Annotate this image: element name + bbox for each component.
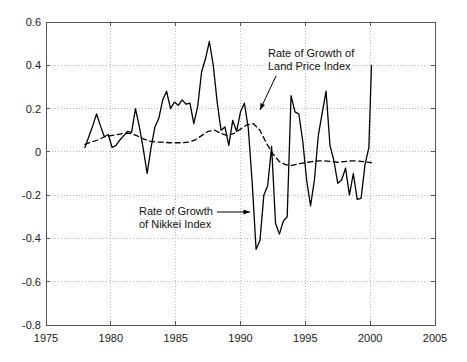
y-axis-tick-label: 0 [35,146,41,158]
x-axis-tick-label: 1975 [34,332,58,344]
x-axis-tick-label: 2005 [423,332,447,344]
annotation-land-price-label: Rate of Growth of Land Price Index [268,47,354,73]
annotation-nikkei-line2: of Nikkei Index [139,218,213,231]
x-axis-tick-label: 1995 [293,332,317,344]
chart-plot-area [0,0,467,362]
x-axis-tick-label: 1980 [99,332,123,344]
annotation-land-price-line1: Rate of Growth of [268,47,354,60]
y-axis-tick-label: 0.6 [26,16,41,28]
y-axis-tick-label: -0.6 [22,276,41,288]
chart-figure: 0.60.40.20-0.2-0.4-0.6-0.8 1975198019851… [0,0,467,362]
y-axis-tick-label: -0.4 [22,232,41,244]
y-axis-tick-label: 0.4 [26,59,41,71]
x-axis-tick-label: 1985 [163,332,187,344]
gridlines [46,22,435,325]
annotation-land-price-line2: Land Price Index [268,60,354,73]
annotation-nikkei-line1: Rate of Growth [139,205,213,218]
x-axis-tick-label: 2000 [358,332,382,344]
y-axis-tick-label: 0.2 [26,103,41,115]
y-axis-tick-label: -0.8 [22,319,41,331]
x-axis-tick-label: 1990 [228,332,252,344]
y-axis-tick-label: -0.2 [22,189,41,201]
annotation-nikkei-label: Rate of Growth of Nikkei Index [139,205,213,231]
